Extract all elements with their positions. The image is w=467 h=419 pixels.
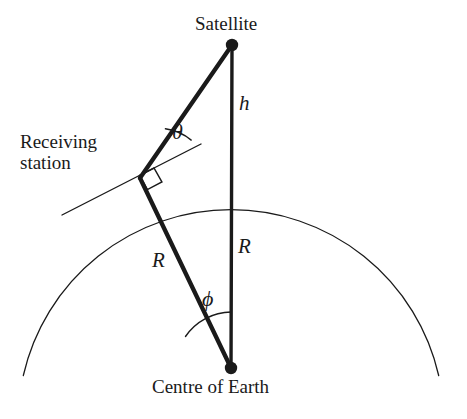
line-station-to-centre — [140, 178, 231, 368]
satellite-point-marker — [226, 39, 238, 51]
phi-angle-label: ϕ — [202, 287, 213, 312]
height-symbol-label: h — [239, 92, 250, 116]
receiving-station-label-line2: station — [20, 152, 71, 173]
satellite-geometry-figure: Satellite Centre of Earth Receivingstati… — [0, 0, 467, 419]
diagram-canvas — [0, 0, 467, 419]
centre-of-earth-label: Centre of Earth — [152, 376, 269, 397]
radius-symbol-slant-label: R — [152, 249, 165, 273]
receiving-station-label: Receivingstation — [20, 131, 97, 174]
receiving-station-label-line1: Receiving — [20, 131, 97, 152]
line-satellite-to-station — [140, 45, 232, 178]
centre-of-earth-point-marker — [225, 362, 237, 374]
radius-symbol-vertical-label: R — [238, 235, 251, 259]
satellite-label: Satellite — [195, 13, 257, 34]
theta-angle-label: θ — [172, 120, 183, 145]
line-satellite-to-centre — [231, 45, 232, 368]
